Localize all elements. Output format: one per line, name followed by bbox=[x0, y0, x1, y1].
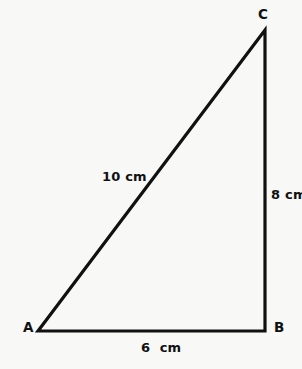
vertex-label-a: A bbox=[23, 321, 33, 335]
vertex-label-c: C bbox=[258, 8, 268, 22]
vertex-label-b: B bbox=[274, 321, 284, 335]
side-length-label-ab: 6 cm bbox=[141, 341, 181, 354]
triangle-outline bbox=[38, 30, 265, 331]
triangle-diagram: A B C 10 cm 8 cm 6 cm bbox=[0, 0, 302, 369]
side-length-label-ac: 10 cm bbox=[102, 170, 147, 183]
side-length-label-bc: 8 cm bbox=[271, 188, 302, 201]
triangle-shape bbox=[0, 0, 302, 369]
